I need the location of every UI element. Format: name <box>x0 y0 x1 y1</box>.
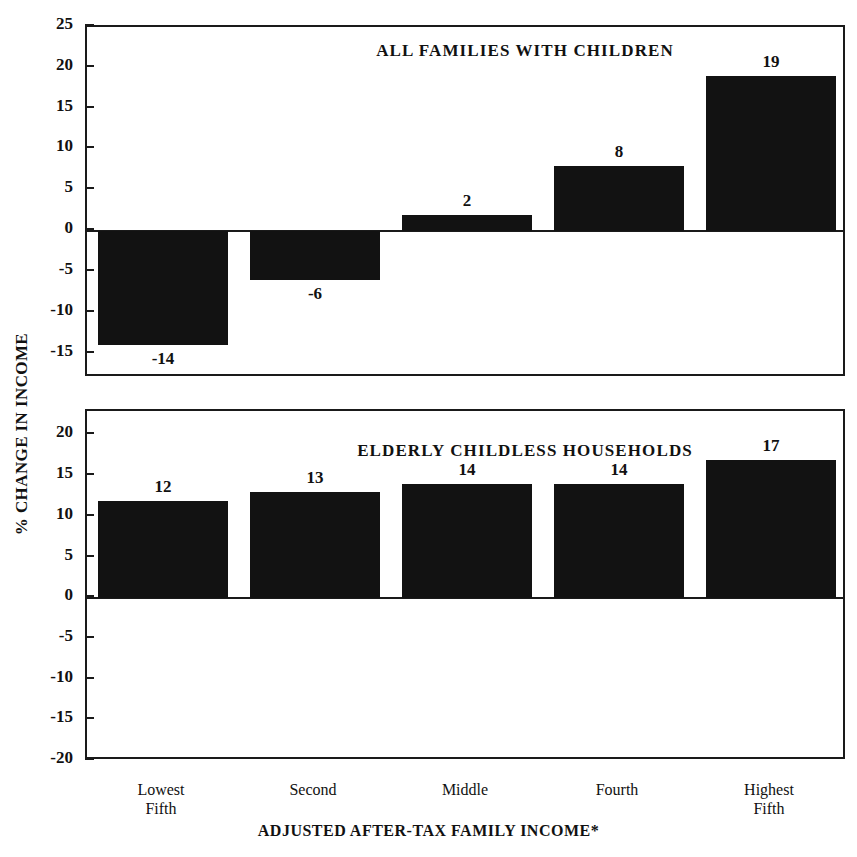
tick-mark <box>85 595 94 597</box>
tick-label: 10 <box>3 136 73 156</box>
x-axis-title: ADJUSTED AFTER-TAX FAMILY INCOME* <box>0 822 857 840</box>
tick-mark <box>85 473 94 475</box>
bar-value-label: -6 <box>250 284 380 304</box>
bar-value-label: 12 <box>98 477 228 497</box>
bar-value-label: 8 <box>554 142 684 162</box>
tick-label: 15 <box>3 463 73 483</box>
bar <box>554 166 684 231</box>
bar-value-label: 14 <box>402 460 532 480</box>
tick-label: -10 <box>3 300 73 320</box>
plot-area-bottom: ELDERLY CHILDLESS HOUSEHOLDS 1213141417 <box>87 411 843 757</box>
x-axis-category-label: Fourth <box>541 780 693 799</box>
tick-mark <box>85 351 94 353</box>
tick-label: 25 <box>3 14 73 34</box>
bar-value-label: -14 <box>98 349 228 369</box>
panel-title-top: ALL FAMILIES WITH CHILDREN <box>376 41 674 61</box>
tick-mark <box>85 269 94 271</box>
bar <box>554 484 684 598</box>
bar <box>98 231 228 345</box>
bar <box>98 501 228 599</box>
bar <box>250 492 380 598</box>
tick-label: -20 <box>3 748 73 768</box>
bar <box>250 231 380 280</box>
tick-label: 5 <box>3 177 73 197</box>
tick-mark <box>85 310 94 312</box>
x-axis-category-label: Middle <box>389 780 541 799</box>
plot-area-top: ALL FAMILIES WITH CHILDREN -14-62819 <box>87 27 843 374</box>
bar <box>706 76 836 231</box>
tick-mark <box>85 187 94 189</box>
x-axis-category-label: Second <box>237 780 389 799</box>
bar-value-label: 13 <box>250 468 380 488</box>
tick-mark <box>85 228 94 230</box>
bar-value-label: 17 <box>706 436 836 456</box>
chart-figure: % CHANGE IN INCOME ALL FAMILIES WITH CHI… <box>0 0 857 857</box>
bar <box>402 215 532 231</box>
tick-mark <box>85 717 94 719</box>
tick-label: -5 <box>3 259 73 279</box>
tick-label: 20 <box>3 55 73 75</box>
tick-mark <box>85 65 94 67</box>
bar <box>402 484 532 598</box>
x-axis-category-label: Lowest Fifth <box>85 780 237 818</box>
tick-label: 0 <box>3 218 73 238</box>
tick-label: 0 <box>3 585 73 605</box>
panel-title-bottom: ELDERLY CHILDLESS HOUSEHOLDS <box>357 441 693 461</box>
tick-mark <box>85 432 94 434</box>
x-axis-category-label: Highest Fifth <box>693 780 845 818</box>
bar-value-label: 2 <box>402 191 532 211</box>
bar <box>706 460 836 598</box>
tick-mark <box>85 636 94 638</box>
bar-value-label: 14 <box>554 460 684 480</box>
tick-mark <box>85 106 94 108</box>
tick-label: -15 <box>3 707 73 727</box>
tick-label: 15 <box>3 96 73 116</box>
tick-mark <box>85 677 94 679</box>
tick-mark <box>85 24 94 26</box>
tick-mark <box>85 555 94 557</box>
panel-all-families-with-children: ALL FAMILIES WITH CHILDREN -14-62819 <box>85 25 845 376</box>
tick-mark <box>85 514 94 516</box>
tick-label: -15 <box>3 341 73 361</box>
tick-label: -10 <box>3 667 73 687</box>
tick-label: 10 <box>3 504 73 524</box>
tick-label: -5 <box>3 626 73 646</box>
tick-mark <box>85 146 94 148</box>
tick-label: 5 <box>3 545 73 565</box>
tick-mark <box>85 758 94 760</box>
tick-label: 20 <box>3 422 73 442</box>
panel-elderly-childless-households: ELDERLY CHILDLESS HOUSEHOLDS 1213141417 <box>85 409 845 759</box>
bar-value-label: 19 <box>706 52 836 72</box>
